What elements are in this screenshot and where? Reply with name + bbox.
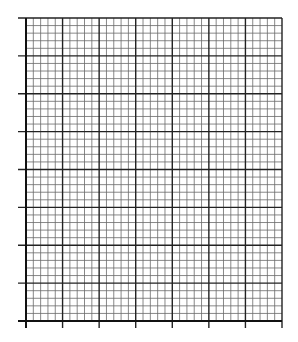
graph-paper-grid [0,0,298,342]
